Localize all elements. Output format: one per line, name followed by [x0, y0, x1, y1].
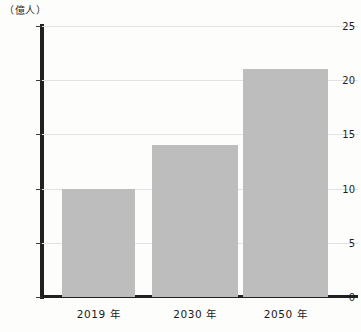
y-tick-mark — [36, 243, 42, 244]
bar — [243, 69, 328, 297]
y-tick-label: 5 — [327, 237, 361, 248]
y-tick-label: 15 — [327, 129, 361, 140]
y-tick-label: 20 — [327, 75, 361, 86]
y-tick-mark — [36, 80, 42, 81]
x-category-label: 2030 年 — [173, 306, 217, 321]
y-tick-label: 10 — [327, 183, 361, 194]
y-tick-label: 0 — [327, 292, 361, 303]
y-tick-mark — [36, 134, 42, 135]
x-category-label: 2050 年 — [264, 306, 308, 321]
bar — [62, 189, 135, 297]
x-category-label: 2019 年 — [77, 306, 121, 321]
bar — [152, 145, 238, 297]
y-tick-mark — [36, 189, 42, 190]
gridline — [42, 26, 358, 27]
y-tick-mark — [36, 26, 42, 27]
y-axis-unit-label: （億人） — [4, 2, 46, 17]
plot-area — [42, 26, 358, 297]
y-tick-mark — [36, 297, 42, 298]
bar-chart: （億人） 0510152025 2019 年2030 年2050 年 — [0, 0, 361, 332]
y-tick-label: 25 — [327, 21, 361, 32]
